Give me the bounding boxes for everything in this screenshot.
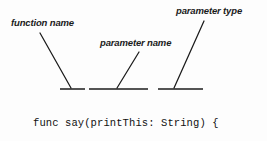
code-block: func say(printThis: String) { print(prin… (0, 90, 267, 141)
leader-lines-group (40, 21, 204, 88)
leader-line-function-name (40, 33, 71, 88)
code-line: func say(printThis: String) { (0, 117, 267, 131)
diagram-canvas: function name parameter name parameter t… (0, 0, 267, 141)
leader-line-parameter-type (174, 21, 204, 88)
leader-line-parameter-name (117, 52, 139, 88)
